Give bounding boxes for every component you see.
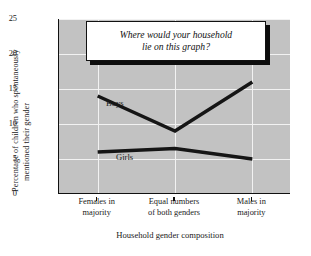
x-tick-label-line: majority <box>203 208 299 219</box>
y-tick-label: 0 <box>0 190 17 198</box>
y-tick-label: 25 <box>0 15 17 23</box>
callout-box: Where would your householdlie on this gr… <box>86 21 266 61</box>
y-tick-label: 20 <box>0 50 17 58</box>
x-axis-label: Household gender composition <box>40 230 300 240</box>
x-tick-mark <box>251 197 252 201</box>
callout-text: Where would your householdlie on this gr… <box>114 29 238 54</box>
x-tick-mark <box>173 197 174 201</box>
x-tick-mark <box>96 197 97 201</box>
callout-text-line: lie on this graph? <box>142 41 210 52</box>
series-label-boys: Boys <box>106 98 124 108</box>
x-tick-label: Males inmajority <box>203 197 299 218</box>
y-tick-label: 10 <box>0 120 17 128</box>
y-tick-label: 15 <box>0 85 17 93</box>
chart-figure: Percentage of children who spontaneously… <box>0 0 311 256</box>
y-axis-label-line-2: mentioned their gender <box>22 103 31 181</box>
y-tick-label: 5 <box>0 155 17 163</box>
series-label-girls: Girls <box>116 152 133 162</box>
y-axis-label: Percentage of children who spontaneously… <box>0 0 34 200</box>
callout-text-line: Where would your household <box>120 29 232 40</box>
